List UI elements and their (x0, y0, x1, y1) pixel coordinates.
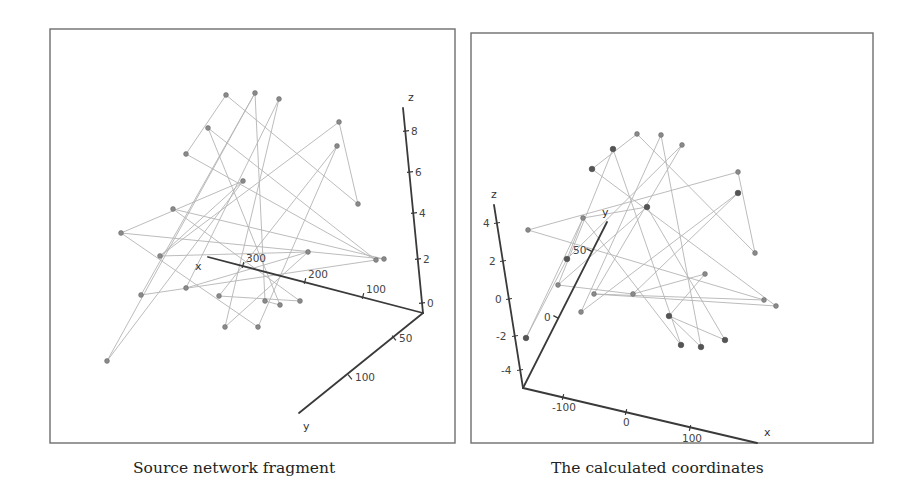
z-axis-tick-label: 4 (483, 217, 490, 229)
network-node (217, 294, 222, 299)
y-axis-label: y (303, 420, 310, 433)
network-node (105, 359, 110, 364)
network-node (762, 298, 767, 303)
z-axis-tick-label: 8 (411, 125, 418, 137)
z-axis-tick-label: 2 (423, 253, 430, 265)
network-node (774, 304, 779, 309)
network-node (119, 231, 124, 236)
network-node (382, 257, 387, 262)
z-axis-tick (419, 303, 425, 304)
network-node (635, 132, 640, 137)
x-axis-tick-label: 0 (623, 416, 630, 428)
z-axis-label: z (491, 188, 497, 201)
network-node (589, 166, 595, 172)
network-node (298, 299, 303, 304)
z-axis-tick-label: 6 (415, 166, 422, 178)
caption-calculated-coordinates: The calculated coordinates (551, 459, 764, 477)
x-axis-tick-label: 100 (682, 432, 702, 444)
y-axis-tick-label: 50 (399, 332, 412, 344)
network-node (666, 313, 672, 319)
y-axis-tick-label: 100 (355, 371, 375, 383)
x-axis-label: x (195, 260, 202, 273)
network-node (564, 256, 570, 262)
network-node (337, 120, 342, 125)
network-node (263, 299, 268, 304)
x-axis-tick-label: 300 (246, 252, 266, 264)
network-node (753, 251, 758, 256)
network-node (306, 250, 311, 255)
network-node (581, 216, 586, 221)
y-axis-tick-label: 0 (544, 311, 551, 323)
network-node (223, 325, 228, 330)
network-node (610, 146, 616, 152)
network-node (256, 325, 261, 330)
x-axis-tick-label: 200 (308, 268, 328, 280)
network-node (356, 202, 361, 207)
network-node (206, 126, 211, 131)
network-node (224, 93, 229, 98)
y-axis-label: y (602, 206, 609, 219)
network-node (680, 143, 685, 148)
z-axis-tick-label: -4 (501, 364, 512, 376)
network-node (644, 204, 650, 210)
figure-canvas: 86420z300200100x50100y 420-2-4z500y-1000… (0, 0, 924, 487)
z-axis-tick-label: -2 (496, 330, 506, 342)
network-node (592, 292, 597, 297)
z-axis-tick-label: 2 (489, 255, 496, 267)
y-axis-tick-label: 50 (573, 244, 586, 256)
network-node (335, 144, 340, 149)
network-node (659, 133, 664, 138)
network-node (526, 228, 531, 233)
x-axis-tick-label: -100 (552, 401, 576, 413)
network-node (556, 283, 561, 288)
z-axis-tick (415, 259, 421, 260)
z-axis-tick (411, 213, 417, 214)
z-axis-tick-label: 4 (419, 207, 426, 219)
z-axis-tick (403, 131, 409, 132)
network-node (631, 292, 636, 297)
z-axis-label: z (408, 91, 414, 104)
panel-frame (50, 29, 455, 443)
network-node (184, 152, 189, 157)
panel-frame (471, 33, 873, 443)
network-node (184, 286, 189, 291)
network-node (139, 293, 144, 298)
x-axis-label: x (764, 426, 771, 439)
network-node (736, 170, 741, 175)
network-node (278, 303, 283, 308)
network-node (158, 254, 163, 259)
network-node (241, 179, 246, 184)
x-axis-tick-label: 100 (366, 283, 386, 295)
network-node (722, 337, 728, 343)
z-axis-tick-label: 0 (427, 297, 434, 309)
network-node (277, 97, 282, 102)
network-node (735, 190, 741, 196)
network-node (171, 207, 176, 212)
z-axis-tick-label: 0 (495, 293, 502, 305)
network-node (523, 335, 529, 341)
network-node (698, 344, 704, 350)
network-node (703, 272, 708, 277)
network-node (678, 342, 684, 348)
caption-source-network-fragment: Source network fragment (133, 459, 335, 477)
panel-source-network: 86420z300200100x50100y (50, 29, 455, 443)
network-node (374, 258, 379, 263)
network-node (579, 310, 584, 315)
z-axis-tick (407, 172, 413, 173)
panel-calculated-coordinates: 420-2-4z500y-1000100x (471, 33, 873, 444)
network-node (253, 91, 258, 96)
